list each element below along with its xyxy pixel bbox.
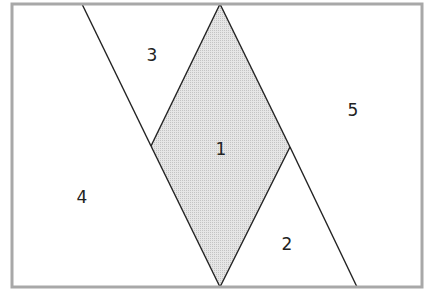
region-label-4: 4: [77, 187, 88, 207]
region-label-5: 5: [348, 100, 359, 120]
left-diagonal-line: [82, 4, 151, 146]
partition-diagram: 3 1 5 4 2: [0, 0, 427, 297]
region-label-1: 1: [216, 139, 227, 159]
right-diagonal-line: [290, 147, 357, 287]
region-label-2: 2: [282, 234, 293, 254]
region-label-3: 3: [147, 45, 158, 65]
